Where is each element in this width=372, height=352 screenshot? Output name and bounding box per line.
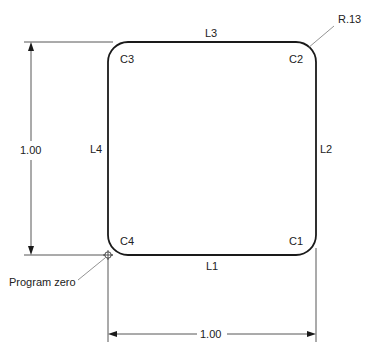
radius-label: R.13	[338, 13, 361, 25]
corner-label-C3: C3	[120, 53, 134, 65]
height-dimension-label: 1.00	[20, 144, 41, 156]
part-outline	[108, 42, 316, 255]
program-zero-label: Program zero	[9, 276, 76, 288]
width-arrow-right-icon	[307, 331, 316, 337]
width-dimension-label: 1.00	[200, 328, 221, 340]
width-arrow-left-icon	[108, 331, 117, 337]
radius-leader	[308, 26, 334, 48]
height-arrow-down-icon	[28, 246, 34, 255]
part-drawing: 1.00 1.00 Program zero R.13 L3 L2 L4 L1 …	[0, 0, 372, 352]
line-label-L2: L2	[320, 143, 332, 155]
height-arrow-up-icon	[28, 42, 34, 51]
line-label-L4: L4	[90, 143, 102, 155]
corner-label-C2: C2	[289, 53, 303, 65]
corner-label-C4: C4	[120, 235, 134, 247]
corner-label-C1: C1	[289, 235, 303, 247]
line-label-L1: L1	[206, 260, 218, 272]
line-label-L3: L3	[205, 27, 217, 39]
program-zero-leader	[78, 258, 105, 280]
